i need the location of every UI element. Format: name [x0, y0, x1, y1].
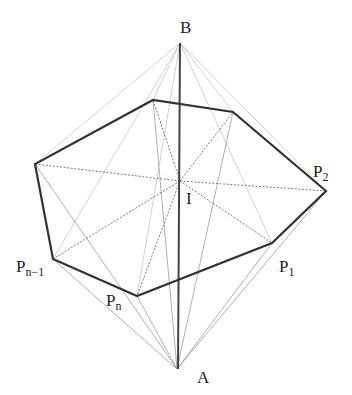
label-a: A — [197, 368, 210, 387]
label-b: B — [180, 18, 191, 37]
axis-ba — [178, 43, 180, 369]
label-pn-1: Pn−1 — [16, 257, 44, 279]
label-p1: P1 — [279, 257, 294, 279]
bipyramid-diagram: B A I P2 P1 Pn−1 Pn — [0, 0, 352, 395]
label-p2: P2 — [313, 162, 328, 184]
label-i: I — [186, 189, 192, 208]
label-pn: Pn — [106, 291, 121, 313]
